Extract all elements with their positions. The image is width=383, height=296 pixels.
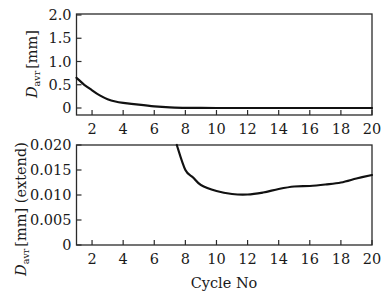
- top-y-tick-label: 1.0: [48, 54, 71, 70]
- top-plot-panel: 00.51.01.52.0 2468101214161820 Davr[mm]: [24, 7, 381, 137]
- bottom-x-tick-label: 6: [150, 251, 159, 267]
- bottom-y-axis-label: Davr[mm] (extend): [13, 142, 31, 277]
- top-data-line: [77, 78, 373, 108]
- bottom-x-tick-label: 10: [207, 251, 225, 267]
- bottom-y-tick-label: 0.020: [30, 137, 72, 153]
- bottom-y-tick-label: 0.005: [30, 212, 72, 228]
- bottom-plot-frame: [77, 145, 373, 245]
- top-x-tick-label: 18: [332, 121, 350, 137]
- bottom-x-tick-label: 8: [181, 251, 190, 267]
- bottom-x-tick-label: 18: [332, 251, 350, 267]
- top-x-tick-label: 2: [87, 121, 96, 137]
- bottom-plot-panel: 00.0050.0100.0150.020 2468101214161820 D…: [13, 137, 381, 291]
- bottom-data-line: [177, 145, 372, 195]
- chart-figure: 00.51.01.52.0 2468101214161820 Davr[mm] …: [0, 0, 383, 296]
- x-axis-label: Cycle No: [191, 275, 258, 291]
- bottom-x-tick-label: 14: [269, 251, 287, 267]
- top-plot-frame: [77, 14, 373, 115]
- bottom-y-tick-label: 0.015: [30, 162, 72, 178]
- top-x-tick-label: 12: [238, 121, 256, 137]
- top-y-tick-label: 1.5: [48, 30, 71, 46]
- top-x-tick-label: 10: [207, 121, 225, 137]
- bottom-x-tick-label: 16: [301, 251, 319, 267]
- top-y-tick-label: 0: [62, 100, 71, 116]
- top-y-tick-label: 2.0: [48, 7, 71, 23]
- bottom-x-tick-label: 2: [87, 251, 96, 267]
- top-x-tick-label: 14: [269, 121, 287, 137]
- bottom-x-tick-label: 4: [119, 251, 128, 267]
- top-x-tick-label: 16: [301, 121, 319, 137]
- top-x-tick-label: 8: [181, 121, 190, 137]
- top-x-tick-label: 20: [363, 121, 381, 137]
- bottom-y-tick-label: 0: [62, 237, 71, 253]
- top-y-tick-label: 0.5: [48, 77, 71, 93]
- bottom-y-tick-label: 0.010: [30, 187, 72, 203]
- top-y-axis-label: Davr[mm]: [24, 30, 42, 99]
- top-x-tick-label: 6: [150, 121, 159, 137]
- bottom-x-tick-label: 12: [238, 251, 256, 267]
- bottom-x-tick-label: 20: [363, 251, 381, 267]
- top-x-tick-label: 4: [119, 121, 128, 137]
- bottom-x-axis-ticks: 2468101214161820: [87, 240, 381, 267]
- bottom-y-axis-ticks: 00.0050.0100.0150.020: [30, 137, 82, 253]
- top-x-axis-ticks: 2468101214161820: [87, 110, 381, 137]
